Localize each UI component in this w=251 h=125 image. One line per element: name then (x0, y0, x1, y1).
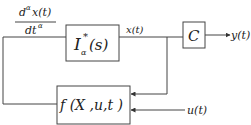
state-label: x(t) (126, 24, 144, 35)
integrator-sup: * (83, 31, 88, 42)
output-label: y(t) (230, 29, 250, 42)
block-diagram: d α x(t) dt α I α * (s) x(t) C y(t) f (X… (0, 0, 251, 125)
input-label: u(t) (187, 104, 207, 117)
numerator-d: d (19, 6, 26, 19)
state-feedback-line (131, 37, 167, 94)
fractional-derivative-label: d α x(t) dt α (15, 4, 56, 37)
denominator-dt: dt (25, 24, 37, 37)
denominator-sup: α (38, 22, 43, 30)
integrator-I: I (73, 34, 81, 54)
numerator-x: x(t) (32, 6, 51, 19)
integrator-s: (s) (89, 36, 109, 54)
output-matrix-block: C (183, 22, 205, 48)
system-function-block: f (X ,u,t ) (57, 86, 130, 124)
c-label: C (188, 27, 200, 45)
numerator-sup: α (26, 4, 31, 12)
integrator-sub: α (81, 48, 87, 57)
integrator-block: I α * (s) (66, 25, 119, 61)
f-label: f (X ,u,t ) (59, 97, 123, 113)
